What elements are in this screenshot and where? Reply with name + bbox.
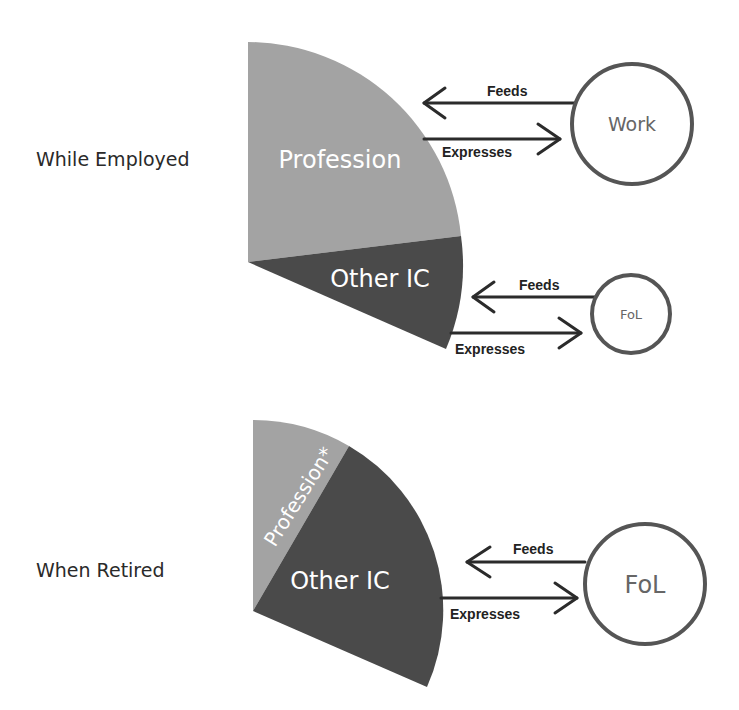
- row-label-retired: When Retired: [36, 559, 165, 581]
- segment-label-other-ic-retired: Other IC: [290, 567, 390, 595]
- expresses-label-fol-retired: Expresses: [450, 606, 520, 622]
- feeds-label-fol-employed: Feeds: [519, 277, 560, 293]
- row-label-employed: While Employed: [36, 148, 190, 170]
- identity-diagram: While Employed Profession Other IC Feeds…: [0, 0, 739, 710]
- segment-label-other-ic: Other IC: [330, 265, 430, 293]
- node-label-work: Work: [608, 113, 656, 135]
- segment-label-profession: Profession: [279, 146, 402, 174]
- feeds-label-fol-retired: Feeds: [513, 541, 554, 557]
- node-label-fol-employed: FoL: [620, 307, 643, 322]
- node-label-fol-retired: FoL: [624, 571, 666, 599]
- expresses-label-work: Expresses: [442, 144, 512, 160]
- expresses-label-fol-employed: Expresses: [455, 341, 525, 357]
- feeds-label-work: Feeds: [487, 83, 528, 99]
